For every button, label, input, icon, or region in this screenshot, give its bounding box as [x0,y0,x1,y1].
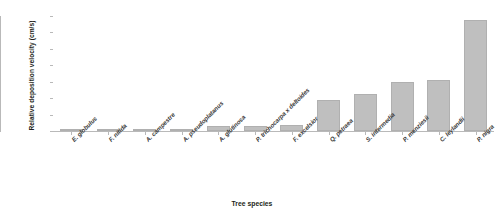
bar [391,82,414,131]
plot-area [53,16,494,131]
y-axis-title: Relative deposition velocity (cm/s) [28,1,35,151]
bar [427,80,450,131]
x-axis-title: Tree species [0,200,504,207]
bar [317,100,340,131]
bar [354,94,377,131]
y-tick-mark [50,131,53,132]
y-axis-line [0,16,1,132]
bar [464,20,487,131]
bar-chart-figure: Relative deposition velocity (cm/s) 0123… [0,0,504,222]
